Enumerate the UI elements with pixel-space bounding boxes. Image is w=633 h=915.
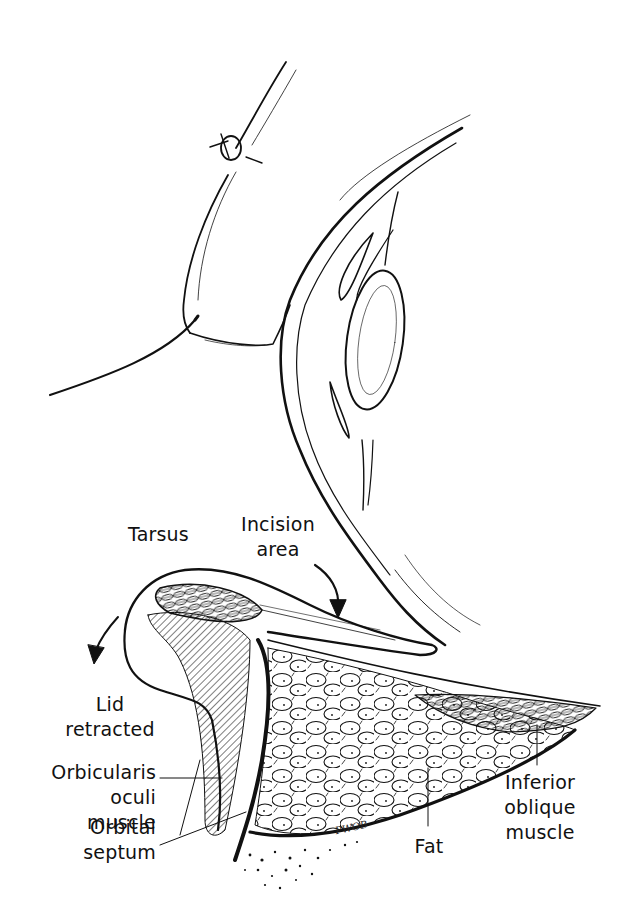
upper-lid-outline <box>50 62 296 395</box>
label-inferior-line2: oblique <box>490 795 590 820</box>
label-septum-line1: Orbital <box>44 815 156 840</box>
label-orbicularis-line1: Orbicularis <box>44 760 156 785</box>
label-tarsus: Tarsus <box>128 522 189 547</box>
label-lid-line1: Lid <box>60 692 160 717</box>
label-septum-line2: septum <box>44 840 156 865</box>
label-incision-line2: area <box>222 537 334 562</box>
lid-retracted-arrow <box>88 617 118 664</box>
label-inferior-line1: Inferior <box>490 770 590 795</box>
label-lid-retracted: Lid retracted <box>60 692 160 742</box>
stipple-texture <box>244 841 358 889</box>
label-lid-line2: retracted <box>60 717 160 742</box>
label-incision-line1: Incision <box>222 512 334 537</box>
label-fat: Fat <box>408 834 450 859</box>
label-inferior-oblique-muscle: Inferior oblique muscle <box>490 770 590 845</box>
globe-outline <box>281 115 480 645</box>
label-orbital-septum: Orbital septum <box>44 815 156 865</box>
label-inferior-line3: muscle <box>490 820 590 845</box>
label-incision-area: Incision area <box>222 512 334 562</box>
